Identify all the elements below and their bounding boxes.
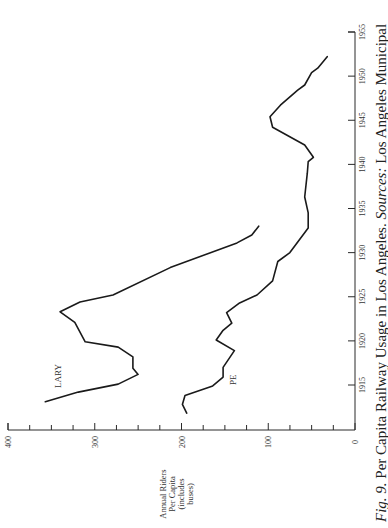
value-axis-label-line-4: buses) bbox=[185, 483, 195, 505]
caption-fig-label: Fig. 9. bbox=[373, 482, 388, 523]
year-ticks: 191519201925193019351940194519501955 bbox=[348, 24, 367, 393]
year-tick-label: 1950 bbox=[358, 68, 367, 84]
year-tick-label: 1920 bbox=[358, 333, 367, 349]
series-layer bbox=[45, 57, 327, 414]
year-tick-label: 1940 bbox=[358, 156, 367, 172]
value-tick-label: 400 bbox=[4, 436, 13, 448]
series-label-lary: LARY bbox=[53, 363, 63, 388]
value-tick-label: 100 bbox=[264, 436, 273, 448]
year-tick-label: 1935 bbox=[358, 201, 367, 217]
year-tick-label: 1955 bbox=[358, 24, 367, 40]
value-tick-label: 0 bbox=[351, 440, 360, 444]
value-ticks: 0100200300400 bbox=[4, 423, 360, 448]
year-tick-label: 1930 bbox=[358, 245, 367, 261]
figure-caption: Fig. 9. Per Capita Railway Usage in Los … bbox=[373, 24, 388, 523]
chart-figure: 191519201925193019351940194519501955 010… bbox=[0, 0, 388, 528]
series-label-pe: PE bbox=[228, 374, 238, 385]
year-tick-label: 1945 bbox=[358, 112, 367, 128]
caption-sources-text: Los Angeles Municipal bbox=[373, 24, 388, 168]
value-axis-label: Annual Riders Per Capita (includes buses… bbox=[158, 469, 195, 518]
value-tick-label: 300 bbox=[91, 436, 100, 448]
year-tick-label: 1915 bbox=[358, 377, 367, 393]
series-line-pe bbox=[182, 57, 327, 414]
value-tick-label: 200 bbox=[178, 436, 187, 448]
caption-sources-label: Sources: bbox=[373, 168, 388, 220]
year-tick-label: 1925 bbox=[358, 289, 367, 305]
caption-text: Per Capita Railway Usage in Los Angeles. bbox=[373, 220, 388, 483]
